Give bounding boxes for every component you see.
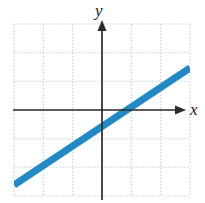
x-axis-arrowhead: [175, 106, 186, 115]
plot-canvas: [0, 0, 205, 203]
y-axis-label: y: [95, 2, 103, 19]
x-axis-label: x: [190, 101, 198, 118]
axes: [13, 26, 180, 200]
graph-figure: y x: [0, 0, 205, 203]
y-axis-arrowhead: [98, 20, 107, 31]
